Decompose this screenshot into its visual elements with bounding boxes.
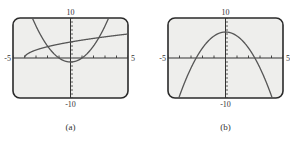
x-min-label: -5 xyxy=(4,54,11,63)
y-min-label: -10 xyxy=(65,100,76,109)
panel-caption: (b) xyxy=(220,122,231,132)
y-min-label: -10 xyxy=(220,100,231,109)
x-min-label: -5 xyxy=(159,54,166,63)
x-max-label: 5 xyxy=(286,54,290,63)
figure: 10-10-55(a)10-10-55(b) xyxy=(0,0,290,143)
x-max-label: 5 xyxy=(131,54,135,63)
y-max-label: 10 xyxy=(222,8,230,17)
panel-caption: (a) xyxy=(66,122,76,132)
y-max-label: 10 xyxy=(67,8,75,17)
panel-a: 10-10-55(a) xyxy=(4,0,135,132)
panel-b: 10-10-55(b) xyxy=(159,8,290,132)
